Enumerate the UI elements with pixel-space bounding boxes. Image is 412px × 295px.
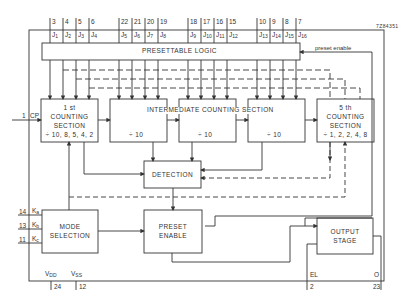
j-pin-number: 19 bbox=[160, 19, 167, 26]
el-pin-number: 2 bbox=[310, 284, 314, 291]
j-pin-number: 20 bbox=[147, 19, 154, 26]
kc-label: Kc bbox=[32, 236, 39, 243]
j-pin-number: 4 bbox=[65, 19, 69, 26]
preset-data-arrows bbox=[50, 60, 296, 99]
j-input-label: J3 bbox=[78, 32, 84, 39]
mode-selection-label: MODE SELECTION bbox=[42, 222, 98, 240]
intermediate-div-2: ÷ 10 bbox=[198, 132, 212, 139]
ka-pin-number: 14 bbox=[19, 209, 26, 216]
intermediate-div-1: ÷ 10 bbox=[129, 132, 143, 139]
intermediate-div-3: ÷ 10 bbox=[267, 132, 281, 139]
j-input-label: J13 bbox=[259, 32, 268, 39]
j-pin-number: 22 bbox=[121, 19, 128, 26]
j-pin-number: 15 bbox=[229, 19, 236, 26]
j-input-label: J2 bbox=[65, 32, 71, 39]
o-label: O bbox=[374, 272, 379, 279]
vdd-pin-number: 24 bbox=[54, 284, 61, 291]
j-input-label: J6 bbox=[134, 32, 140, 39]
j-input-label: J16 bbox=[298, 32, 307, 39]
j-input-label: J9 bbox=[190, 32, 196, 39]
vss-pin-number: 12 bbox=[79, 284, 86, 291]
fifth-counting-label: 5 th COUNTING SECTION ÷ 1, 2, 2, 4, 8 bbox=[317, 103, 374, 139]
j-pin-number: 16 bbox=[216, 19, 223, 26]
j-pin-number: 7 bbox=[298, 19, 302, 26]
vdd-label: VDD bbox=[45, 271, 57, 278]
j-input-label: J10 bbox=[203, 32, 212, 39]
kc-pin-number: 11 bbox=[19, 237, 26, 244]
mode-dashed-lines bbox=[63, 70, 360, 99]
ka-label: Ka bbox=[32, 208, 39, 215]
el-label: EL bbox=[310, 272, 318, 279]
kb-label: Kb bbox=[32, 222, 39, 229]
j-input-label: J15 bbox=[285, 32, 294, 39]
vss-label: VSS bbox=[71, 271, 82, 278]
output-stage-label: OUTPUT STAGE bbox=[317, 227, 373, 245]
j-pin-number: 21 bbox=[134, 19, 141, 26]
j-pin-number: 10 bbox=[259, 19, 266, 26]
j-input-label: J1 bbox=[52, 32, 58, 39]
j-input-label: J4 bbox=[91, 32, 97, 39]
j-pin-number: 6 bbox=[91, 19, 95, 26]
figure-id: 7Z84351 bbox=[376, 24, 399, 29]
j-pin-number: 3 bbox=[52, 19, 56, 26]
cp-label: CP bbox=[30, 113, 39, 120]
j-input-label: J8 bbox=[160, 32, 166, 39]
j-input-label: J14 bbox=[272, 32, 281, 39]
j-pin-number: 5 bbox=[78, 19, 82, 26]
o-pin-number: 23 bbox=[373, 284, 380, 291]
first-counting-label: 1 st COUNTING SECTION ÷ 10, 8, 5, 4, 2 bbox=[41, 103, 98, 139]
j-pin-number: 18 bbox=[190, 19, 197, 26]
detection-label: DETECTION bbox=[144, 170, 201, 179]
j-pin-number: 9 bbox=[272, 19, 276, 26]
j-pin-number: 17 bbox=[203, 19, 210, 26]
intermediate-title: INTERMEDIATE COUNTING SECTION bbox=[146, 107, 275, 114]
cp-pin-number: 1 bbox=[22, 113, 26, 120]
j-input-label: J11 bbox=[216, 32, 224, 39]
j-input-label: J12 bbox=[229, 32, 238, 39]
preset-enable-label: PRESET ENABLE bbox=[144, 222, 202, 240]
j-input-label: J7 bbox=[147, 32, 153, 39]
j-input-label: J5 bbox=[121, 32, 127, 39]
kb-pin-number: 13 bbox=[19, 223, 26, 230]
preset-enable-signal-label: preset enable bbox=[315, 45, 351, 51]
j-pin-number: 8 bbox=[285, 19, 289, 26]
presettable-logic-label: PRESETTABLE LOGIC bbox=[142, 48, 217, 55]
